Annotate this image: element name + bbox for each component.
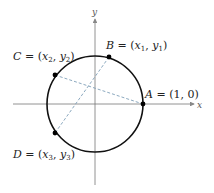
label-d: D = (x3, y3) bbox=[12, 148, 75, 162]
y-axis-label: y bbox=[91, 7, 98, 17]
point-b bbox=[107, 55, 112, 60]
unit-circle-diagram: x y B = (x1, y1) C = (x2, y2) A = (1, 0)… bbox=[0, 0, 214, 193]
x-axis-label: x bbox=[197, 100, 202, 110]
chord-c-a bbox=[55, 75, 143, 104]
point-a bbox=[141, 102, 146, 107]
point-d bbox=[53, 131, 58, 136]
label-b: B = (x1, y1) bbox=[105, 39, 167, 53]
label-c: C = (x2, y2) bbox=[13, 50, 75, 64]
point-c bbox=[53, 73, 58, 78]
label-a: A = (1, 0) bbox=[144, 88, 199, 101]
